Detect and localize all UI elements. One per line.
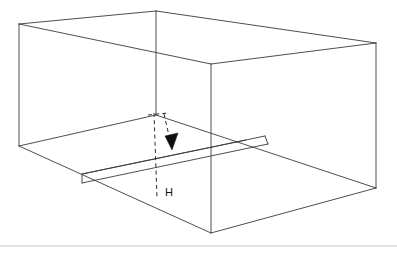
top-edge-left-to-inner bbox=[19, 24, 211, 64]
top-edge-inner-to-right bbox=[211, 43, 376, 64]
box-diagram-svg: H bbox=[0, 0, 397, 253]
figure-canvas: H bbox=[0, 0, 397, 253]
box-top-rim-group bbox=[19, 11, 376, 64]
dashed-line-left bbox=[154, 113, 157, 198]
box-floor-group bbox=[19, 115, 376, 233]
floor-band-right-run bbox=[265, 136, 268, 144]
box-vertical-edges-group bbox=[19, 11, 376, 233]
floor-edge-back-left bbox=[19, 115, 156, 146]
top-edge-left-to-back bbox=[19, 11, 156, 24]
dashed-tick-top bbox=[148, 113, 168, 115]
down-arrow-icon bbox=[165, 133, 178, 150]
floor-band-lower-edge bbox=[82, 144, 268, 183]
height-label: H bbox=[165, 186, 173, 198]
floor-edge-front-right bbox=[211, 188, 376, 233]
floor-edge-front-left bbox=[19, 146, 211, 233]
top-edge-back-to-right bbox=[156, 11, 376, 43]
height-measure-group bbox=[148, 113, 178, 198]
